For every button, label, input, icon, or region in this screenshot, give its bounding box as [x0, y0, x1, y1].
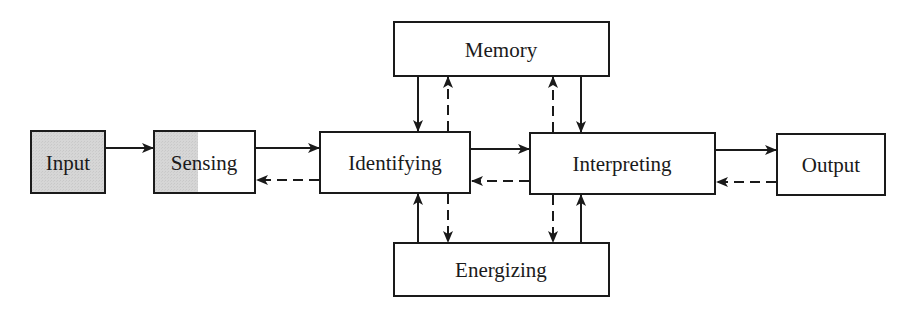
node-sensing: Sensing	[154, 131, 255, 193]
node-output: Output	[777, 134, 885, 195]
node-interpreting-label: Interpreting	[572, 152, 672, 176]
node-sensing-label: Sensing	[171, 151, 238, 175]
node-output-label: Output	[802, 153, 861, 177]
node-identifying: Identifying	[320, 132, 470, 193]
node-input: Input	[31, 131, 105, 193]
node-memory: Memory	[394, 22, 609, 76]
node-energizing: Energizing	[394, 243, 609, 296]
node-interpreting: Interpreting	[530, 133, 715, 194]
node-memory-label: Memory	[465, 38, 538, 62]
node-energizing-label: Energizing	[455, 258, 547, 282]
diagram-canvas: Input Sensing Identifying Interpreting O…	[0, 0, 912, 311]
node-input-label: Input	[46, 151, 90, 175]
node-identifying-label: Identifying	[348, 151, 442, 175]
